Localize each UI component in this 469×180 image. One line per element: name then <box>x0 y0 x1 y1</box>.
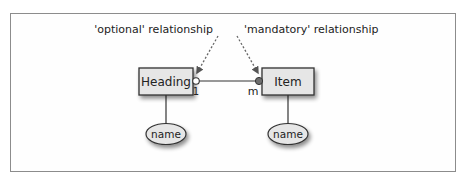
attribute-heading-name[interactable]: name <box>146 124 186 145</box>
mandatory-relationship-label: 'mandatory' relationship <box>244 23 378 36</box>
mandatory-annotation-arrow <box>237 36 258 73</box>
optional-annotation-arrow <box>197 36 218 73</box>
er-diagram: 'optional' relationship 'mandatory' rela… <box>0 0 469 180</box>
attribute-heading-name-label: name <box>151 128 181 140</box>
entity-item[interactable]: Item <box>262 68 314 95</box>
attribute-item-name-label: name <box>273 128 303 140</box>
entity-heading-label: Heading <box>141 75 191 89</box>
entity-item-label: Item <box>274 75 301 89</box>
entity-heading[interactable]: Heading <box>139 68 193 95</box>
mandatory-participation-dot-icon <box>255 77 262 84</box>
cardinality-many-label: m <box>248 85 259 98</box>
attribute-item-name[interactable]: name <box>268 124 308 145</box>
cardinality-one-label: 1 <box>193 86 199 97</box>
optional-participation-circle-icon <box>193 78 200 85</box>
optional-relationship-label: 'optional' relationship <box>94 23 213 36</box>
